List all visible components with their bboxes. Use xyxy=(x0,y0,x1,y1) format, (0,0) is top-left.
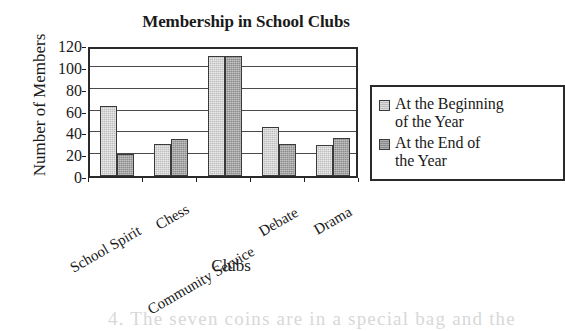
x-tick-mark xyxy=(88,178,89,182)
x-tick-mark xyxy=(304,178,305,182)
y-tick-mark xyxy=(82,91,86,92)
y-tick-mark xyxy=(82,134,86,135)
x-tick-mark xyxy=(250,178,251,182)
bar xyxy=(171,139,188,176)
bar-group xyxy=(252,49,306,176)
y-tick-mark xyxy=(82,113,86,114)
x-axis-label-community-service: Community Service xyxy=(145,243,258,318)
legend-swatch-icon-end xyxy=(379,139,390,150)
legend-item-end-of-year: At the End of the Year xyxy=(379,134,480,171)
bar xyxy=(154,144,171,176)
y-tick-mark xyxy=(82,178,86,179)
bars-layer xyxy=(90,49,356,176)
y-tick-label: 80 xyxy=(66,83,82,99)
chart-title: Membership in School Clubs xyxy=(96,12,396,32)
bar xyxy=(262,127,279,176)
legend-box: At the Beginning of the Year At the End … xyxy=(370,85,565,181)
legend-label-beginning: At the Beginning of the Year xyxy=(395,95,504,132)
y-tick-mark xyxy=(82,69,86,70)
bar xyxy=(100,106,117,176)
x-axis-label-chess: Chess xyxy=(153,201,193,234)
y-tick-mark xyxy=(82,47,86,48)
y-tick-label: 120 xyxy=(58,39,82,55)
legend-item-beginning-of-year: At the Beginning of the Year xyxy=(379,95,504,132)
x-axis-category-labels: School SpiritChessCommunity ServiceDebat… xyxy=(0,183,400,303)
legend-label-end: At the End of the Year xyxy=(395,134,480,171)
x-tick-mark xyxy=(358,178,359,182)
bar xyxy=(316,145,333,176)
bar xyxy=(333,138,350,176)
x-tick-mark xyxy=(142,178,143,182)
bar xyxy=(225,56,242,176)
bar-group xyxy=(306,49,360,176)
x-tick-mark xyxy=(196,178,197,182)
y-tick-label: 60 xyxy=(66,105,82,121)
scan-artifact-text: 4. The seven coins are in a special bag … xyxy=(108,308,556,330)
x-axis-title: Clubs xyxy=(96,256,366,276)
y-tick-label: 20 xyxy=(66,148,82,164)
y-axis-tick-labels: 020406080100120 xyxy=(42,40,86,185)
bar xyxy=(208,56,225,176)
y-tick-label: 40 xyxy=(66,126,82,142)
bar xyxy=(117,154,134,176)
legend-swatch-icon-beginning xyxy=(379,100,390,111)
bar xyxy=(279,144,296,176)
plot-area xyxy=(88,47,358,178)
x-axis-label-drama: Drama xyxy=(311,203,355,238)
bar-group xyxy=(90,49,144,176)
y-tick-label: 100 xyxy=(58,61,82,77)
y-tick-mark xyxy=(82,156,86,157)
bar-group xyxy=(198,49,252,176)
bar-group xyxy=(144,49,198,176)
x-axis-label-debate: Debate xyxy=(256,204,301,240)
